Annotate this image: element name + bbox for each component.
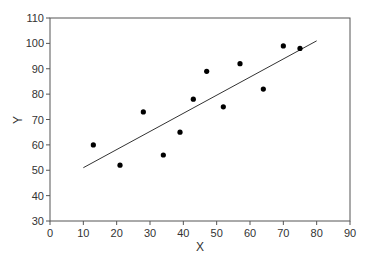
x-tick-label: 60 bbox=[244, 227, 256, 239]
plot-border bbox=[50, 18, 350, 221]
data-point bbox=[91, 142, 96, 147]
data-point bbox=[191, 97, 196, 102]
x-axis-label: X bbox=[196, 240, 204, 254]
x-tick-label: 70 bbox=[277, 227, 289, 239]
data-point bbox=[221, 104, 226, 109]
x-tick-label: 50 bbox=[211, 227, 223, 239]
y-tick-label: 110 bbox=[26, 12, 44, 24]
x-axis: 0102030405060708090 bbox=[47, 221, 356, 239]
y-axis-label: Y bbox=[11, 116, 25, 124]
y-tick-label: 90 bbox=[32, 63, 44, 75]
scatter-chart: 0102030405060708090 30405060708090100110… bbox=[0, 0, 370, 266]
x-tick-label: 90 bbox=[344, 227, 356, 239]
x-tick-label: 80 bbox=[311, 227, 323, 239]
data-point bbox=[177, 130, 182, 135]
y-tick-label: 50 bbox=[32, 164, 44, 176]
data-point bbox=[141, 109, 146, 114]
y-tick-label: 60 bbox=[32, 139, 44, 151]
fit-line-segment bbox=[83, 41, 316, 168]
x-tick-label: 10 bbox=[77, 227, 89, 239]
data-point bbox=[237, 61, 242, 66]
y-tick-label: 100 bbox=[26, 37, 44, 49]
x-tick-label: 40 bbox=[177, 227, 189, 239]
regression-line bbox=[83, 41, 316, 168]
y-axis: 30405060708090100110 bbox=[26, 12, 50, 227]
y-tick-label: 80 bbox=[32, 88, 44, 100]
data-point bbox=[281, 43, 286, 48]
data-point bbox=[297, 46, 302, 51]
x-tick-label: 30 bbox=[144, 227, 156, 239]
data-point bbox=[261, 86, 266, 91]
x-tick-label: 0 bbox=[47, 227, 53, 239]
y-tick-label: 40 bbox=[32, 190, 44, 202]
data-point bbox=[161, 152, 166, 157]
y-tick-label: 30 bbox=[32, 215, 44, 227]
plot-frame bbox=[50, 18, 350, 221]
data-point bbox=[117, 163, 122, 168]
y-tick-label: 70 bbox=[32, 114, 44, 126]
data-point bbox=[204, 69, 209, 74]
x-tick-label: 20 bbox=[111, 227, 123, 239]
